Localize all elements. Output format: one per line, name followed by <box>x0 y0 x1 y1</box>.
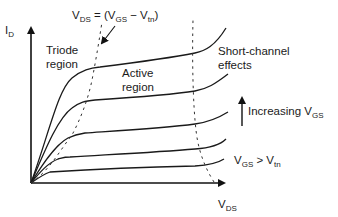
mosfet-iv-diagram: ID VDS VDS = (VGS − Vtn) Triode region A… <box>0 0 338 217</box>
triode-region-label: Triode region <box>46 44 81 70</box>
increasing-vgs-label: Increasing VGS <box>248 105 324 120</box>
y-axis-label: ID <box>5 24 14 39</box>
iv-curve-1 <box>31 159 224 183</box>
short-channel-label: Short-channel effects <box>218 45 293 71</box>
x-axis-label: VDS <box>218 198 237 213</box>
boundary-equation: VDS = (VGS − Vtn) <box>72 9 158 24</box>
short-channel-boundary-line <box>193 20 214 182</box>
active-region-label: Active region <box>122 67 157 93</box>
equation-pointer-arrow <box>102 26 115 43</box>
iv-curve-2 <box>31 139 226 183</box>
vgs-gt-vtn-label: VGS > Vtn <box>234 154 281 169</box>
iv-curve-3 <box>31 112 228 183</box>
